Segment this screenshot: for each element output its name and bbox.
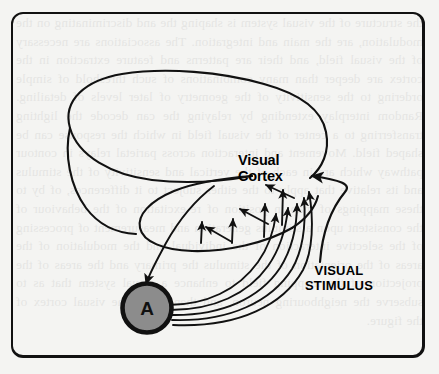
figure-page: the structure of the visual system is sh… [0,0,439,374]
label-visual-cortex: Visual Cortex [238,152,283,184]
figure-frame-border [11,12,425,358]
label-visual-stimulus: VISUAL STIMULUS [305,264,373,293]
